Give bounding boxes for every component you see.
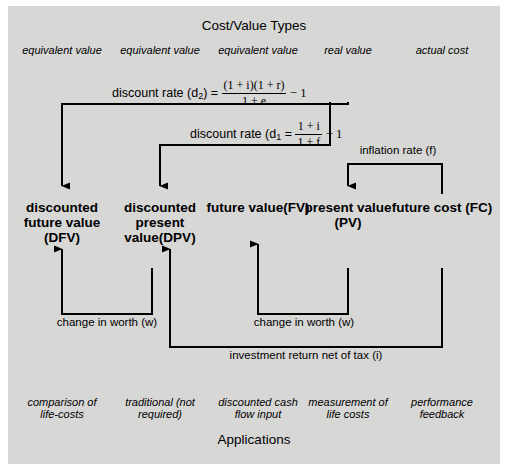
formula-d2-denominator: 1 + e xyxy=(222,94,287,109)
edge-change-in-worth-right xyxy=(258,244,348,314)
node-fv-line-0: future value(FV) xyxy=(207,200,310,215)
type-label-3: real value xyxy=(324,44,372,56)
edge-label-change-in-worth-right: change in worth (w) xyxy=(254,316,354,329)
edge-change-in-worth-left xyxy=(62,249,152,314)
type-label-2: equivalent value xyxy=(218,44,298,56)
type-label-4: actual cost xyxy=(416,44,469,56)
node-dfv-line-2: (DFV) xyxy=(24,230,101,245)
application-1-line-0: traditional (not xyxy=(125,396,195,408)
diagram-panel: Cost/Value Types equivalent value equiva… xyxy=(8,6,500,464)
node-fc-line-0: future cost (FC) xyxy=(392,200,493,215)
formula-d2-label-end: ) = xyxy=(203,86,218,100)
application-0: comparison of life-costs xyxy=(27,396,96,421)
formula-d1: discount rate (d1 = 1 + i 1 + f − 1 xyxy=(190,119,342,150)
formula-d2-numerator: (1 + i)(1 + r) xyxy=(222,78,287,94)
node-dpv-line-2: value(DPV) xyxy=(124,230,196,245)
node-discounted-future-value: discounted future value (DFV) xyxy=(24,200,101,245)
application-2-line-0: discounted cash xyxy=(218,396,298,408)
formula-d2-fraction: (1 + i)(1 + r) 1 + e xyxy=(222,78,287,109)
node-dpv-line-1: present xyxy=(124,215,196,230)
node-future-cost: future cost (FC) xyxy=(392,200,493,215)
edge-label-change-in-worth-left: change in worth (w) xyxy=(57,316,157,329)
application-3: measurement of life costs xyxy=(308,396,387,421)
application-4: performance feedback xyxy=(411,396,473,421)
application-2: discounted cash flow input xyxy=(218,396,298,421)
node-dfv-line-1: future value xyxy=(24,215,101,230)
node-dfv-line-0: discounted xyxy=(24,200,101,215)
edge-inflation-rate xyxy=(348,164,442,194)
formula-d1-label: discount rate (d xyxy=(190,127,276,141)
node-future-value: future value(FV) xyxy=(207,200,310,215)
formula-d2: discount rate (d2) = (1 + i)(1 + r) 1 + … xyxy=(112,78,306,109)
application-0-line-0: comparison of xyxy=(27,396,96,408)
node-dpv-line-0: discounted xyxy=(124,200,196,215)
application-2-line-1: flow input xyxy=(218,408,298,420)
node-pv-line-0: present value xyxy=(304,200,391,215)
edge-label-investment-return: investment return net of tax (i) xyxy=(230,349,383,362)
formula-d2-tail: − 1 xyxy=(290,86,306,100)
application-3-line-1: life costs xyxy=(308,408,387,420)
application-3-line-0: measurement of xyxy=(308,396,387,408)
application-0-line-1: life-costs xyxy=(27,408,96,420)
node-pv-line-1: (PV) xyxy=(304,215,391,230)
application-4-line-0: performance xyxy=(411,396,473,408)
application-1: traditional (not required) xyxy=(125,396,195,421)
formula-d1-numerator: 1 + i xyxy=(295,119,322,135)
formula-d1-label-end: = xyxy=(281,127,292,141)
bottom-title: Applications xyxy=(218,432,291,447)
formula-d1-denominator: 1 + f xyxy=(295,135,322,150)
formula-d2-label: discount rate (d xyxy=(112,86,198,100)
top-title: Cost/Value Types xyxy=(202,18,307,33)
type-label-1: equivalent value xyxy=(120,44,200,56)
edge-label-inflation-rate: inflation rate (f) xyxy=(360,144,437,157)
type-label-0: equivalent value xyxy=(22,44,102,56)
formula-d1-tail: − 1 xyxy=(326,127,342,141)
application-1-line-1: required) xyxy=(125,408,195,420)
node-discounted-present-value: discounted present value(DPV) xyxy=(124,200,196,245)
application-4-line-1: feedback xyxy=(411,408,473,420)
node-present-value: present value (PV) xyxy=(304,200,391,230)
formula-d1-fraction: 1 + i 1 + f xyxy=(295,119,322,150)
edge-investment-return xyxy=(170,249,442,347)
